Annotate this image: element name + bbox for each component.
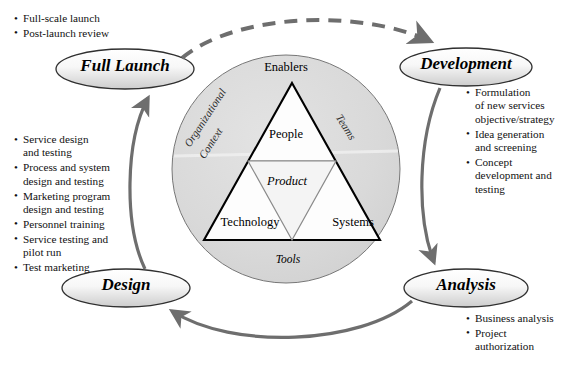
- core-ring-label-tools: Tools: [258, 253, 318, 265]
- list-item: Idea generation and screening: [466, 128, 578, 155]
- list-item: Concept development and testing: [466, 156, 578, 196]
- core-label-people: People: [250, 127, 322, 142]
- list-item: Process and system design and testing: [14, 161, 164, 188]
- list-item: Marketing program design and testing: [14, 190, 164, 217]
- list-item: Service design and testing: [14, 133, 164, 160]
- list-item: Personnel training: [14, 218, 164, 231]
- list-item: Full-scale launch: [14, 12, 164, 25]
- list-item: Test marketing: [14, 261, 164, 274]
- arrow-analysis-to-design: [172, 301, 412, 337]
- bullets-design: Service design and testing Process and s…: [14, 133, 164, 276]
- stage-ellipse-development[interactable]: [400, 48, 532, 86]
- core-label-systems: Systems: [318, 215, 388, 230]
- stage-ellipse-analysis[interactable]: [404, 269, 528, 307]
- bullets-development: Formulation of new services objective/st…: [466, 86, 578, 198]
- list-item: Formulation of new services objective/st…: [466, 86, 578, 126]
- arrow-full-launch-to-development: [182, 20, 430, 58]
- core-label-technology: Technology: [207, 215, 293, 230]
- list-item: Project authorization: [466, 327, 576, 354]
- stage-ellipse-full-launch[interactable]: [56, 49, 194, 89]
- bullets-analysis: Business analysis Project authorization: [466, 312, 576, 355]
- core-label-enablers: Enablers: [246, 60, 326, 75]
- list-item: Service testing and pilot run: [14, 233, 164, 260]
- bullets-full-launch: Full-scale launch Post-launch review: [14, 12, 164, 42]
- list-item: Business analysis: [466, 312, 576, 325]
- core-ring-label-organizational-context: Organizational Context: [185, 104, 252, 128]
- arrow-development-to-analysis: [422, 88, 440, 262]
- core-label-product: Product: [252, 174, 322, 189]
- list-item: Post-launch review: [14, 27, 164, 40]
- diagram-canvas: Full Launch Development Analysis Design …: [0, 0, 580, 367]
